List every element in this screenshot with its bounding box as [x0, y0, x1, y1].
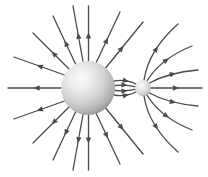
small-sphere: [135, 80, 151, 96]
field-line-out-ne: [147, 46, 192, 81]
arrowhead-radial-sse-0: [103, 132, 111, 140]
field-line-out-ene: [150, 70, 199, 83]
field-line-out-nne: [144, 24, 178, 80]
arrowhead-radial-nw1-0: [62, 39, 70, 47]
large-sphere: [61, 61, 115, 115]
arrowhead-radial-n-0: [86, 32, 91, 38]
field-line-out-ese: [150, 93, 199, 106]
arrowhead-radial-sw1-0: [62, 129, 70, 137]
field-line-radial-sw2: [33, 106, 70, 143]
arrowhead-out-e-0: [173, 85, 179, 90]
arrowhead-radial-wsw-0: [36, 106, 44, 113]
arrowhead-bridge-up1-0: [121, 82, 128, 88]
arrowhead-out-nne-0: [152, 45, 160, 53]
arrowhead-radial-w-0: [33, 85, 39, 90]
arrowhead-radial-nne-0: [103, 36, 111, 44]
arrowhead-bridge-dn1-0: [121, 88, 128, 94]
field-line-out-se: [147, 95, 192, 130]
field-line-figure: [0, 0, 208, 177]
field-line-canvas: [0, 0, 208, 177]
field-line-out-sse: [144, 96, 178, 152]
arrowhead-radial-s-0: [86, 137, 91, 143]
arrowhead-out-sse-0: [152, 123, 160, 131]
arrowhead-radial-wnw-0: [36, 63, 44, 70]
